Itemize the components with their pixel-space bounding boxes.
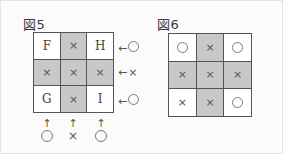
circle-icon <box>41 130 53 142</box>
grid-cell: × <box>34 60 60 86</box>
grid-cell: × <box>61 60 87 86</box>
col-label-glyph <box>41 130 53 142</box>
row-label-glyph <box>128 94 139 108</box>
circle-icon <box>232 42 243 53</box>
arrow-up-icon: ↑ <box>68 118 77 129</box>
grid-cell: × <box>169 89 196 116</box>
grid-cell: × <box>61 86 87 112</box>
arrow-up-icon: ↑ <box>42 118 51 129</box>
arrow-left-icon: ← <box>118 67 127 78</box>
figure-6-caption: 図6 <box>157 14 179 33</box>
grid-cell: × <box>197 89 224 116</box>
figure-5-row-label: ← × <box>118 67 137 78</box>
figure-5-row-label: ← <box>118 41 139 55</box>
grid-cell: × <box>87 60 113 86</box>
grid-cell <box>224 89 251 116</box>
row-label-glyph <box>128 41 139 55</box>
figure-panel: 図5 F × H × × × G × I ← ← × ← ↑ ↑ × ↑ 図6 … <box>0 0 283 154</box>
circle-icon <box>95 130 107 142</box>
figure-5-grid: F × H × × × G × I <box>33 32 114 113</box>
arrow-left-icon: ← <box>118 96 127 107</box>
grid-cell: I <box>87 86 113 112</box>
circle-icon <box>128 94 139 105</box>
grid-cell: G <box>34 86 60 112</box>
figure-5-col-label: ↑ × <box>68 118 78 142</box>
grid-cell: × <box>197 34 224 61</box>
grid-cell: H <box>87 33 113 59</box>
cross-icon: × <box>128 67 137 78</box>
grid-cell <box>224 34 251 61</box>
figure-5-row-label: ← <box>118 94 139 108</box>
cross-icon: × <box>68 130 78 142</box>
circle-icon <box>232 97 243 108</box>
grid-cell: × <box>61 33 87 59</box>
arrow-up-icon: ↑ <box>96 118 105 129</box>
figure-6-grid: × × × × × × <box>168 33 252 117</box>
grid-cell <box>169 34 196 61</box>
figure-5-col-label: ↑ <box>41 118 53 142</box>
col-label-glyph <box>95 130 107 142</box>
grid-cell: × <box>169 62 196 89</box>
figure-5-caption: 図5 <box>23 14 45 33</box>
figure-5-col-label: ↑ <box>95 118 107 142</box>
grid-cell: F <box>34 33 60 59</box>
circle-icon <box>177 42 188 53</box>
grid-cell: × <box>224 62 251 89</box>
circle-icon <box>128 41 139 52</box>
grid-cell: × <box>197 62 224 89</box>
arrow-left-icon: ← <box>118 43 127 54</box>
